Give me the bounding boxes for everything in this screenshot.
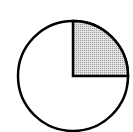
shaded-quarter (73, 21, 128, 76)
fraction-circle-diagram (0, 0, 133, 132)
fraction-figure (0, 0, 133, 132)
